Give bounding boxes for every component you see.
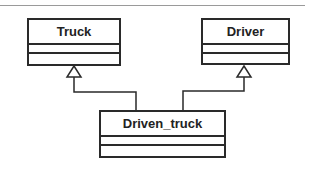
class-name: Truck xyxy=(29,20,119,45)
operations-compartment xyxy=(101,146,224,157)
generalization-arrowhead-truck xyxy=(67,66,81,77)
class-truck[interactable]: Truck xyxy=(27,18,121,66)
attributes-compartment xyxy=(203,45,288,54)
generalization-line-driver xyxy=(183,77,244,111)
generalization-arrowhead-driver xyxy=(237,66,251,77)
class-driver[interactable]: Driver xyxy=(201,18,290,65)
class-driven-truck[interactable]: Driven_truck xyxy=(99,110,226,158)
generalization-line-truck xyxy=(74,77,136,111)
attributes-compartment xyxy=(29,45,119,54)
operations-compartment xyxy=(203,54,288,65)
operations-compartment xyxy=(29,54,119,65)
class-name: Driver xyxy=(203,20,288,45)
attributes-compartment xyxy=(101,137,224,146)
class-name: Driven_truck xyxy=(101,112,224,137)
